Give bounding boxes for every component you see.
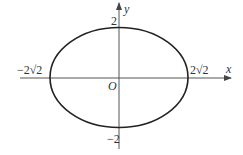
y-bottom-intercept-label: −2 bbox=[107, 132, 120, 146]
ellipse-diagram: y x O 2 −2 −2√2 2√2 bbox=[0, 0, 243, 155]
y-top-intercept-label: 2 bbox=[111, 14, 117, 28]
x-right-intercept-label: 2√2 bbox=[190, 63, 209, 77]
x-left-intercept-label: −2√2 bbox=[17, 63, 42, 77]
y-axis-label: y bbox=[123, 2, 130, 16]
origin-label: O bbox=[108, 79, 117, 93]
x-axis-label: x bbox=[225, 62, 232, 76]
